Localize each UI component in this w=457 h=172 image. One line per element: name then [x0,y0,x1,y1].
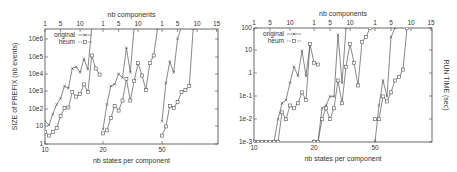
marker-square-icon [382,95,385,98]
marker-square-icon [129,99,132,102]
marker-square-icon [94,67,97,70]
marker-square-icon [144,88,147,91]
marker-x-icon [75,65,78,68]
x-top-tick-label: 10 [286,19,294,26]
x-top-tick-label: 1 [312,19,316,26]
marker-square-icon [105,129,108,132]
marker-square-icon [184,88,187,91]
marker-square-icon [109,117,112,120]
marker-square-icon [386,100,389,103]
marker-square-icon [361,40,364,43]
marker-square-icon [273,141,276,144]
legend-marker-square-icon [84,41,87,44]
marker-x-icon [325,104,328,107]
marker-square-icon [285,118,288,121]
marker-square-icon [289,104,292,107]
marker-square-icon [188,85,191,88]
marker-square-icon [277,141,280,144]
x-top-tick-label: 5 [268,19,272,26]
y-tick-label: 1e-2 [239,115,252,122]
marker-square-icon [353,61,356,64]
y-tick-label: 10e3 [29,87,44,94]
marker-square-icon [337,79,340,82]
marker-square-icon [152,54,155,57]
marker-square-icon [329,118,332,121]
marker-square-icon [75,95,78,98]
marker-square-icon [406,27,409,30]
marker-square-icon [333,107,336,110]
x-top-tick-label: 10 [346,19,354,26]
x-top-tick-label: 1 [160,20,164,27]
x-bottom-tick-label: 20 [310,144,318,151]
marker-square-icon [301,91,304,94]
marker-square-icon [297,102,300,105]
x-top-tick-label: 5 [59,20,63,27]
marker-square-icon [59,114,62,117]
series-heum-line [45,55,100,135]
y-tick-label: 1e-1 [239,92,252,99]
marker-square-icon [281,111,284,114]
marker-square-icon [390,91,393,94]
marker-square-icon [293,107,296,110]
marker-square-icon [47,134,50,137]
marker-square-icon [172,107,175,110]
x-top-tick-label: 5 [328,19,332,26]
marker-square-icon [378,118,381,121]
y-axis-title: SIZE of PREFIX (nb events) [11,43,19,131]
marker-square-icon [269,141,272,144]
marker-square-icon [369,27,372,30]
marker-square-icon [394,79,397,82]
bottom-axis-title: nb states per component [93,157,170,165]
y-tick-label: 1 [248,69,252,76]
chart-prefix-size: 11010e210e310e410e510e610205015101510151… [0,0,228,172]
y-tick-label: 10e2 [29,105,44,112]
marker-square-icon [180,91,183,94]
marker-square-icon [321,118,324,121]
x-top-tick-label: 1 [373,19,377,26]
chart-prefix-size-svg: 11010e210e310e410e510e610205015101510151… [0,0,228,172]
marker-square-icon [398,76,401,79]
y-tick-label: 10e4 [29,70,44,77]
marker-square-icon [63,107,66,110]
top-axis-title: nb components [319,10,367,18]
marker-square-icon [137,62,140,65]
y-axis-title: RUN TIME (sec) [442,59,450,110]
marker-square-icon [341,102,344,105]
marker-square-icon [67,106,70,109]
marker-square-icon [402,68,405,71]
marker-square-icon [164,125,167,128]
x-bottom-tick-label: 50 [371,144,379,151]
legend-label: heum [268,37,284,44]
marker-square-icon [349,42,352,45]
y-tick-label: 10 [245,46,253,53]
x-top-tick-label: 1 [101,20,105,27]
marker-square-icon [102,132,105,135]
marker-square-icon [117,109,120,112]
x-top-tick-label: 15 [427,19,435,26]
marker-square-icon [113,104,116,107]
series-heum-line [162,24,195,136]
x-top-tick-label: 10 [193,20,201,27]
marker-square-icon [51,130,54,133]
x-top-tick-label: 10 [407,19,415,26]
marker-square-icon [86,91,89,94]
x-bottom-tick-label: 10 [41,146,49,153]
x-bottom-tick-label: 10 [250,144,258,151]
marker-square-icon [156,27,159,30]
marker-square-icon [374,118,377,121]
legend-label: heum [59,38,75,45]
top-axis-title: nb components [108,11,156,19]
x-top-tick-label: 10 [134,20,142,27]
series-original-line [103,24,136,129]
x-top-tick-label: 1 [43,20,47,27]
marker-square-icon [357,84,360,87]
marker-square-icon [261,141,264,144]
marker-square-icon [365,36,368,39]
marker-square-icon [141,74,144,77]
series-heum-line [314,28,370,142]
x-top-tick-label: 1 [252,19,256,26]
series-original-line [375,23,397,142]
marker-square-icon [71,91,74,94]
marker-square-icon [44,130,47,133]
marker-square-icon [309,42,312,45]
